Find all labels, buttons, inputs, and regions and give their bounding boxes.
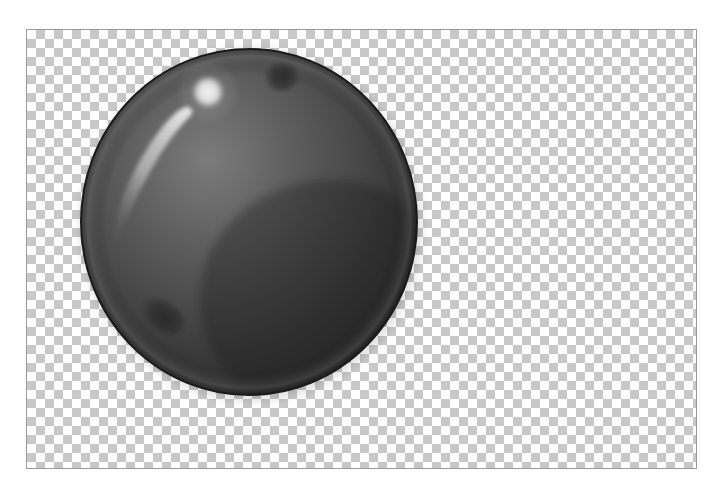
image-canvas xyxy=(0,0,725,489)
specular-glow xyxy=(180,64,236,120)
sphere-rim-light xyxy=(81,49,417,395)
sphere-layer xyxy=(0,0,725,489)
top-dark-spot xyxy=(265,63,297,91)
sphere-graphic xyxy=(0,0,725,489)
